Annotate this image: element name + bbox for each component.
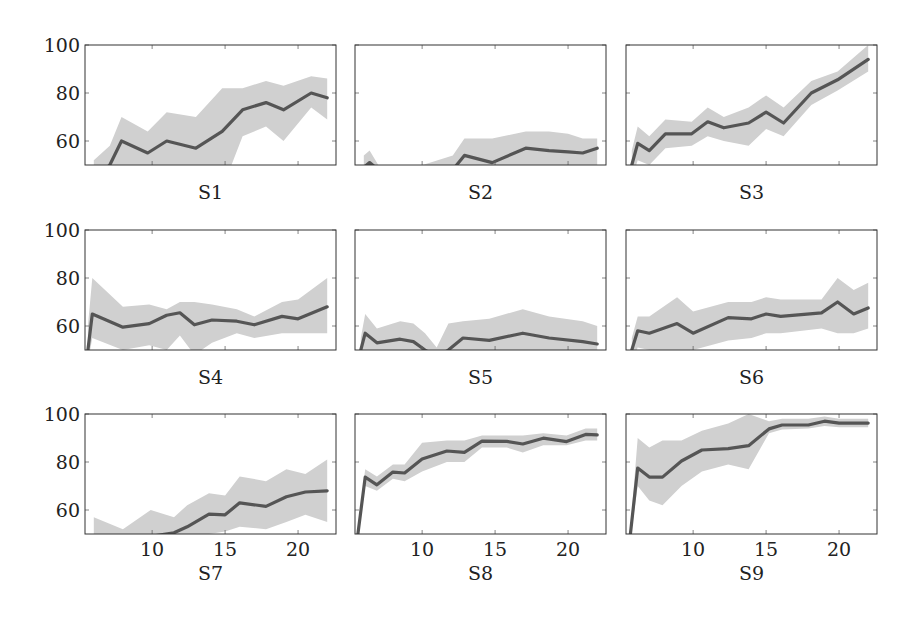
panel-label: S6	[739, 366, 764, 388]
plot-area	[632, 278, 868, 362]
panel-label: S3	[739, 181, 764, 203]
small-multiples-figure: 1008060S1S2S31008060S4S5S61008060101520S…	[0, 0, 923, 619]
y-tick-label: 80	[56, 451, 80, 473]
panel-s7: 1008060101520S7	[44, 403, 336, 584]
plot-area	[358, 428, 597, 538]
y-tick-label: 100	[44, 34, 80, 56]
x-tick-label: 15	[754, 538, 778, 560]
plot-area	[88, 278, 327, 362]
panel-s1: 1008060S1	[44, 34, 336, 203]
y-tick-label: 100	[44, 219, 80, 241]
confidence-band	[632, 45, 868, 179]
confidence-band	[630, 414, 868, 539]
y-tick-label: 80	[56, 267, 80, 289]
plot-area	[361, 309, 597, 369]
x-tick-label: 10	[681, 538, 705, 560]
plot-area	[630, 414, 868, 539]
panel-label: S2	[468, 181, 493, 203]
panel-label: S5	[468, 366, 493, 388]
x-tick-label: 10	[140, 538, 164, 560]
confidence-band	[94, 76, 327, 189]
panel-label: S4	[198, 366, 223, 388]
x-tick-label: 15	[213, 538, 237, 560]
y-tick-label: 60	[56, 130, 80, 152]
y-tick-label: 60	[56, 315, 80, 337]
y-tick-label: 80	[56, 82, 80, 104]
x-tick-label: 10	[410, 538, 434, 560]
y-tick-label: 100	[44, 403, 80, 425]
panel-label: S1	[198, 181, 223, 203]
panel-s9: 101520S9	[626, 414, 877, 584]
panel-s4: 1008060S4	[44, 219, 336, 388]
panel-s6: S6	[626, 230, 877, 388]
panel-label: S7	[198, 562, 223, 584]
panel-label: S8	[468, 562, 493, 584]
plot-area	[94, 76, 327, 189]
y-tick-label: 60	[56, 499, 80, 521]
panel-s5: S5	[355, 230, 606, 388]
x-tick-label: 15	[483, 538, 507, 560]
x-tick-label: 20	[827, 538, 851, 560]
x-tick-label: 20	[556, 538, 580, 560]
panel-label: S9	[739, 562, 764, 584]
panel-s8: 101520S8	[355, 414, 606, 584]
panel-s2: S2	[355, 45, 606, 203]
panel-s3: S3	[626, 45, 877, 203]
x-tick-label: 20	[286, 538, 310, 560]
plot-area	[632, 45, 868, 179]
